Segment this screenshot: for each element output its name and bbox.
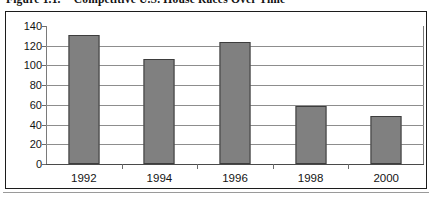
x-tick-label-1998: 1998 — [298, 172, 324, 184]
y-tick-label-40: 40 — [12, 119, 42, 130]
x-tick-mark-3 — [273, 164, 274, 169]
bar-2000[interactable] — [371, 116, 402, 164]
bar-1996[interactable] — [219, 42, 250, 164]
y-tick-label-120: 120 — [12, 40, 42, 51]
bar-slot-2000 — [348, 26, 424, 164]
x-tick-mark-4 — [348, 164, 349, 169]
figure-caption-label: Figure 1.1. — [6, 0, 61, 5]
x-tick-mark-1 — [122, 164, 123, 169]
bar-1992[interactable] — [68, 35, 99, 164]
x-tick-mark-2 — [197, 164, 198, 169]
x-tick-label-1992: 1992 — [71, 172, 97, 184]
bar-1998[interactable] — [295, 106, 326, 164]
chart-frame: 020406080100120140 19921994199619982000 — [5, 11, 427, 189]
x-tick-label-1996: 1996 — [222, 172, 248, 184]
y-tick-label-140: 140 — [12, 21, 42, 32]
y-tick-label-100: 100 — [12, 60, 42, 71]
figure-caption-text: Competitive U.S. House Races Over Time — [74, 0, 286, 5]
y-tick-label-20: 20 — [12, 139, 42, 150]
figure-caption: Figure 1.1.Competitive U.S. House Races … — [6, 0, 285, 7]
bar-slot-1996 — [197, 26, 273, 164]
x-tick-label-2000: 2000 — [373, 172, 399, 184]
bar-slot-1994 — [122, 26, 198, 164]
y-tick-label-0: 0 — [12, 159, 42, 170]
y-axis-labels: 020406080100120140 — [8, 26, 42, 164]
y-tick-label-80: 80 — [12, 80, 42, 91]
y-tick-label-60: 60 — [12, 99, 42, 110]
category-axis-line — [46, 164, 424, 165]
x-tick-label-1994: 1994 — [147, 172, 173, 184]
bar-slot-1998 — [273, 26, 349, 164]
bar-1994[interactable] — [144, 59, 175, 164]
plot-area — [46, 26, 424, 164]
bar-slot-1992 — [46, 26, 122, 164]
